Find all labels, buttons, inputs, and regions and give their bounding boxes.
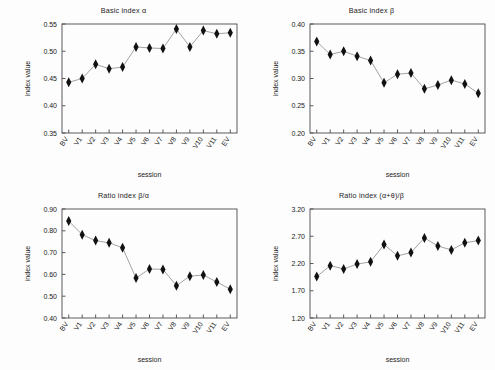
data-point-marker (120, 62, 125, 72)
x-axis-tick-label: V3 (99, 320, 110, 331)
data-point-marker (422, 233, 427, 243)
x-axis-tick-label: V5 (126, 320, 137, 331)
x-axis-title: session (386, 356, 410, 363)
x-axis-tick-label: V8 (415, 320, 426, 331)
x-axis-tick-label: V9 (428, 135, 439, 146)
x-axis-tick-label: V5 (374, 135, 385, 146)
y-axis-tick-label: 0.40 (291, 21, 305, 28)
y-axis-tick-label: 0.35 (43, 130, 57, 137)
x-axis-title: session (386, 171, 410, 178)
x-axis-tick-label: V6 (140, 135, 151, 146)
x-axis-tick-label: V7 (401, 320, 412, 331)
plot-area-basic-index-alpha: 0.350.400.450.500.55BVV1V2V3V4V5V6V7V8V9… (0, 0, 247, 185)
data-point-marker (80, 74, 85, 84)
chart-panel-basic-index-beta: Basic index β 0.200.250.300.350.40BVV1V2… (248, 0, 495, 185)
x-axis-tick-label: V7 (153, 135, 164, 146)
x-axis-tick-label: V11 (205, 320, 218, 334)
x-axis-tick-label: V5 (374, 320, 385, 331)
data-point-marker (328, 261, 333, 271)
y-axis-tick-label: 3.20 (291, 206, 305, 213)
y-axis-tick-label: 0.90 (43, 206, 57, 213)
y-axis-tick-label: 0.30 (291, 75, 305, 82)
x-axis-title: session (138, 356, 162, 363)
x-axis-tick-label: BV (58, 135, 69, 147)
x-axis-tick-label: EV (468, 135, 479, 147)
y-axis-tick-label: 2.70 (291, 233, 305, 240)
y-axis-tick-label: 0.25 (291, 102, 305, 109)
x-axis-title: session (138, 171, 162, 178)
x-axis-tick-label: V1 (320, 320, 331, 331)
x-axis-tick-label: V6 (388, 320, 399, 331)
y-axis-tick-label: 0.70 (43, 249, 57, 256)
x-axis-tick-label: V2 (334, 135, 345, 146)
data-point-marker (174, 281, 179, 291)
data-point-marker (355, 51, 360, 61)
data-point-marker (314, 36, 319, 46)
x-axis-tick-label: V7 (401, 135, 412, 146)
x-axis-tick-label: V11 (453, 320, 466, 334)
data-point-marker (66, 216, 71, 226)
y-axis-tick-label: 0.45 (43, 75, 57, 82)
x-axis-tick-label: V2 (334, 320, 345, 331)
data-point-marker (449, 245, 454, 255)
data-point-marker (201, 26, 206, 36)
x-axis-tick-label: V8 (167, 320, 178, 331)
x-axis-tick-label: V1 (72, 135, 83, 146)
x-axis-tick-label: V1 (320, 135, 331, 146)
data-point-marker (147, 264, 152, 274)
x-axis-tick-label: V10 (191, 135, 204, 149)
x-axis-tick-label: V10 (439, 135, 452, 149)
data-point-marker (408, 68, 413, 78)
y-axis-title: index value (24, 246, 31, 282)
data-point-marker (449, 75, 454, 85)
data-point-marker (341, 264, 346, 274)
chart-panel-basic-index-alpha: Basic index α 0.350.400.450.500.55BVV1V2… (0, 0, 247, 185)
x-axis-tick-label: V1 (72, 320, 83, 331)
x-axis-tick-label: V10 (439, 320, 452, 334)
y-axis-tick-label: 0.55 (43, 21, 57, 28)
y-axis-title: index value (24, 61, 31, 97)
data-point-marker (228, 28, 233, 38)
figure-canvas: Basic index α 0.350.400.450.500.55BVV1V2… (0, 0, 495, 370)
x-axis-tick-label: V9 (180, 135, 191, 146)
y-axis-tick-label: 0.60 (43, 271, 57, 278)
y-axis-tick-label: 0.35 (291, 48, 305, 55)
x-axis-tick-label: V2 (86, 135, 97, 146)
data-point-marker (107, 238, 112, 248)
data-point-marker (314, 272, 319, 282)
y-axis-tick-label: 2.20 (291, 260, 305, 267)
data-point-marker (133, 42, 138, 52)
data-point-marker (381, 239, 386, 249)
x-axis-tick-label: V8 (167, 135, 178, 146)
data-point-marker (355, 259, 360, 269)
x-axis-tick-label: V11 (453, 135, 466, 149)
x-axis-tick-label: V9 (428, 320, 439, 331)
x-axis-tick-label: V6 (140, 320, 151, 331)
data-point-marker (476, 88, 481, 98)
x-axis-tick-label: V5 (126, 135, 137, 146)
y-axis-tick-label: 0.40 (43, 315, 57, 322)
x-axis-tick-label: V4 (361, 135, 372, 146)
x-axis-tick-label: V3 (347, 135, 358, 146)
data-point-marker (174, 24, 179, 34)
x-axis-tick-label: BV (58, 320, 69, 332)
data-point-marker (228, 284, 233, 294)
y-axis-title: index value (272, 61, 279, 97)
data-point-marker (66, 77, 71, 87)
data-point-marker (187, 271, 192, 281)
x-axis-tick-label: V4 (113, 135, 124, 146)
x-axis-tick-label: EV (220, 320, 231, 332)
x-axis-tick-label: V6 (388, 135, 399, 146)
x-axis-tick-label: V2 (86, 320, 97, 331)
y-axis-tick-label: 0.50 (43, 48, 57, 55)
data-point-marker (214, 29, 219, 39)
plot-area-ratio-index-alpha-theta-beta: 1.201.702.202.703.20BVV1V2V3V4V5V6V7V8V9… (248, 185, 495, 370)
x-axis-tick-label: BV (306, 135, 317, 147)
x-axis-tick-label: V11 (205, 135, 218, 149)
x-axis-tick-label: V7 (153, 320, 164, 331)
data-point-marker (147, 43, 152, 53)
x-axis-tick-label: BV (306, 320, 317, 332)
data-point-marker (341, 46, 346, 56)
data-point-marker (214, 277, 219, 287)
data-point-marker (422, 84, 427, 94)
